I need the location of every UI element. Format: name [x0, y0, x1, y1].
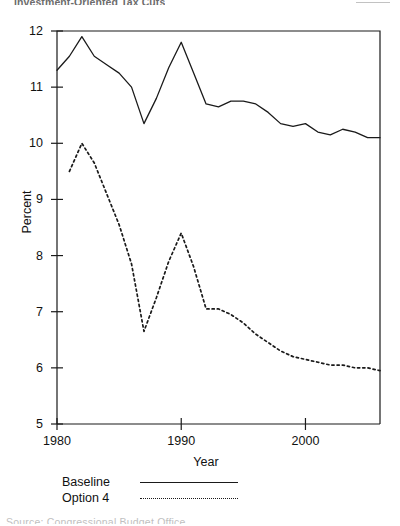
legend-entry: Option 4	[62, 490, 312, 506]
x-axis-tick-label: 1990	[156, 435, 206, 448]
y-axis-tick-label: 10	[17, 137, 43, 150]
y-axis-title: Percent	[20, 172, 34, 252]
data-series	[57, 37, 380, 371]
series-line-baseline	[57, 37, 380, 138]
series-line-option-4	[69, 143, 380, 370]
figure-container: Investment-Oriented Tax Cuts 56789101112…	[0, 0, 400, 526]
x-axis-tick-label: 2000	[280, 435, 330, 448]
axis-ticks	[51, 31, 305, 430]
y-axis-tick-label: 5	[17, 418, 43, 431]
y-axis-tick-label: 7	[17, 306, 43, 319]
cropped-footer-text: Source: Congressional Budget Office	[6, 516, 398, 524]
chart-legend: BaselineOption 4	[62, 474, 312, 506]
x-axis-title: Year	[176, 455, 236, 469]
legend-label: Baseline	[62, 474, 110, 490]
legend-entry: Baseline	[62, 474, 312, 490]
y-axis-tick-label: 6	[17, 362, 43, 375]
legend-line-sample	[140, 498, 238, 499]
y-axis-tick-label: 12	[17, 25, 43, 38]
y-axis-tick-label: 11	[17, 81, 43, 94]
x-axis-tick-label: 1980	[32, 435, 82, 448]
legend-line-sample	[140, 482, 238, 483]
legend-label: Option 4	[62, 490, 109, 506]
